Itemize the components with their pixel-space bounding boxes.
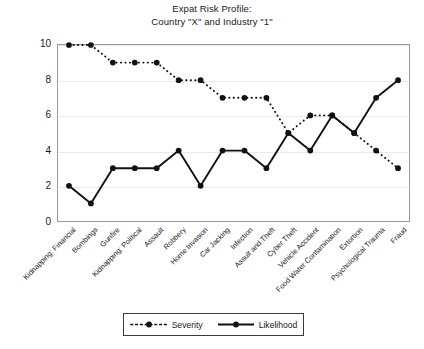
y-axis-tick-label: 10 (21, 39, 51, 49)
data-point (395, 77, 401, 83)
chart-title-line-1: Expat Risk Profile: (0, 2, 424, 15)
y-axis-tick-label: 4 (21, 146, 51, 156)
data-point (264, 165, 270, 171)
x-axis-label: Kidnapping: Financial (22, 226, 78, 282)
data-point (66, 183, 72, 189)
y-axis-tick-label: 8 (21, 75, 51, 85)
data-point (110, 165, 116, 171)
data-point (242, 95, 248, 101)
data-series-layer (58, 45, 409, 221)
data-point (242, 148, 248, 154)
data-point (132, 165, 138, 171)
data-point (285, 130, 291, 136)
y-axis-tick-label: 6 (21, 110, 51, 120)
chart-title-line-2: Country "X" and Industry "1" (0, 15, 424, 28)
data-point (88, 42, 94, 48)
chart-title: Expat Risk Profile: Country "X" and Indu… (0, 2, 424, 28)
data-point (395, 165, 401, 171)
data-point (329, 113, 335, 119)
data-point (176, 77, 182, 83)
likelihood-line-icon (217, 320, 255, 329)
data-point (264, 95, 270, 101)
x-axis-labels: Kidnapping: FinancialBombingsGunfireKidn… (0, 222, 424, 322)
data-point (220, 148, 226, 154)
data-point (154, 60, 160, 66)
chart-container: Expat Risk Profile: Country "X" and Indu… (0, 0, 424, 349)
data-point (351, 130, 357, 136)
data-point (154, 165, 160, 171)
x-axis-label: Fraud (389, 226, 408, 245)
data-point (220, 95, 226, 101)
plot-area (57, 44, 410, 222)
legend-label-severity: Severity (172, 320, 203, 330)
severity-line-icon (130, 320, 168, 329)
data-point (132, 60, 138, 66)
data-point (198, 77, 204, 83)
data-point (176, 148, 182, 154)
y-axis-tick-label: 2 (21, 181, 51, 191)
data-point (66, 42, 72, 48)
chart-legend: Severity Likelihood (123, 313, 304, 336)
data-point (373, 148, 379, 154)
data-point (307, 148, 313, 154)
data-point (88, 201, 94, 207)
data-point (110, 60, 116, 66)
legend-item-severity: Severity (130, 320, 203, 330)
legend-label-likelihood: Likelihood (259, 320, 298, 330)
data-point (307, 113, 313, 119)
data-point (198, 183, 204, 189)
legend-item-likelihood: Likelihood (217, 320, 298, 330)
data-point (373, 95, 379, 101)
